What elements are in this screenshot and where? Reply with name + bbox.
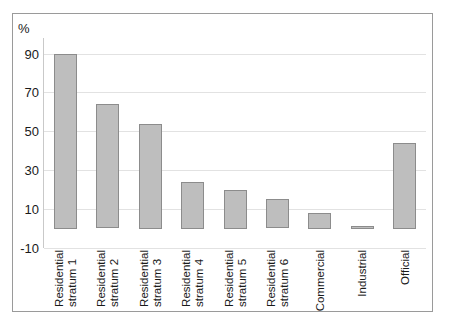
bar <box>139 124 162 229</box>
x-tick-label: Industrial <box>341 250 383 310</box>
gridline <box>44 92 426 93</box>
x-tick-label-text: Residentialstratum 4 <box>180 250 205 307</box>
bar <box>351 226 374 229</box>
gridline <box>44 54 426 55</box>
x-tick-label: Residentialstratum 4 <box>171 250 213 310</box>
y-tick-label: -10 <box>20 242 39 255</box>
y-tick-label: 50 <box>25 125 39 138</box>
x-tick-label: Commercial <box>299 250 341 310</box>
bar <box>224 190 247 229</box>
x-tick-label-text: Commercial <box>314 250 327 311</box>
bar <box>266 199 289 228</box>
y-tick-label: 30 <box>25 164 39 177</box>
x-axis-tick-labels: Residentialstratum 1Residentialstratum 2… <box>44 250 426 310</box>
gridline <box>44 248 426 249</box>
x-tick-label-text: Residentialstratum 1 <box>53 250 78 307</box>
y-tick-label: 70 <box>25 86 39 99</box>
y-tick-label: 10 <box>25 203 39 216</box>
bar <box>308 213 331 229</box>
x-tick-label: Residentialstratum 2 <box>86 250 128 310</box>
x-tick-label: Official <box>384 250 426 310</box>
x-tick-label-text: Residentialstratum 3 <box>138 250 163 307</box>
bar <box>96 104 119 228</box>
x-tick-label-text: Residentialstratum 2 <box>95 250 120 307</box>
y-axis-tick-labels: 9070503010-10 <box>12 38 39 248</box>
bar <box>181 182 204 229</box>
x-tick-label: Residentialstratum 6 <box>256 250 298 310</box>
x-tick-label: Residentialstratum 3 <box>129 250 171 310</box>
y-axis-unit-label: % <box>18 22 30 35</box>
bar <box>393 143 416 229</box>
chart-figure: % 9070503010-10 Residentialstratum 1Resi… <box>0 0 457 328</box>
y-tick-label: 90 <box>25 48 39 61</box>
x-tick-label-text: Official <box>399 250 412 285</box>
x-tick-label-text: Industrial <box>356 250 369 297</box>
x-tick-label-text: Residentialstratum 6 <box>265 250 290 307</box>
plot-area <box>44 38 426 248</box>
x-tick-label: Residentialstratum 1 <box>44 250 86 310</box>
x-tick-label: Residentialstratum 5 <box>214 250 256 310</box>
x-tick-label-text: Residentialstratum 5 <box>223 250 248 307</box>
bar <box>54 54 77 229</box>
